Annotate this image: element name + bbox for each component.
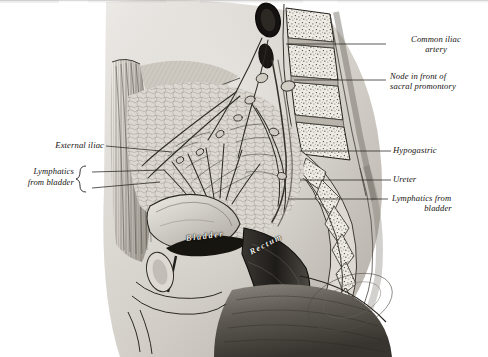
label-node-sacral-promontory-line2: sacral promontory xyxy=(390,81,488,91)
label-hypogastric: Hypogastric xyxy=(393,145,487,155)
label-ureter: Ureter xyxy=(393,174,487,184)
label-common-iliac-artery-line2: artery xyxy=(388,44,484,54)
label-node-sacral-promontory: Node in front of xyxy=(390,71,488,81)
label-lymphatics-from-bladder-left: Lymphatics xyxy=(0,166,74,176)
label-lymphatics-from-bladder-right: Lymphatics from xyxy=(392,193,488,203)
label-external-iliac: External iliac xyxy=(4,140,104,150)
label-common-iliac-artery: Common iliac xyxy=(388,34,484,44)
label-lymphatics-from-bladder-right-line2: bladder xyxy=(392,203,484,213)
scan-artifact xyxy=(0,0,488,1)
label-lymphatics-from-bladder-left-line2: from bladder xyxy=(0,177,74,187)
